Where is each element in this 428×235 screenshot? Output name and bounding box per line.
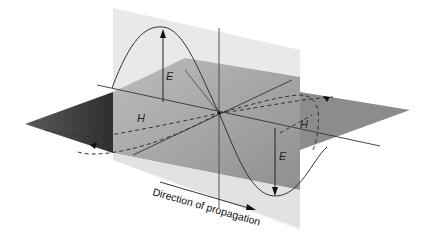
horizontal-plane-left — [25, 92, 113, 153]
horizontal-plane-right — [300, 92, 410, 150]
label-h-left: H — [137, 112, 145, 124]
em-wave-diagram: E H H E Direction of propagation — [0, 0, 428, 235]
label-e-bottom: E — [279, 150, 287, 162]
label-e-top: E — [166, 70, 174, 82]
origin-point — [218, 112, 221, 115]
label-h-right: H — [300, 118, 308, 130]
